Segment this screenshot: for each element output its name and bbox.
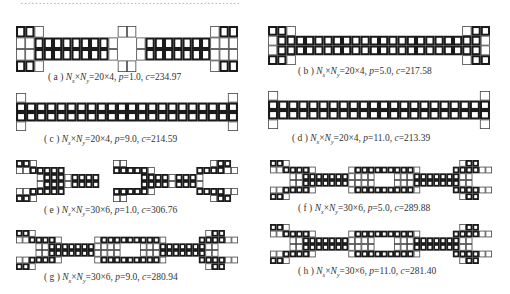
cropped-body-text: ……………………………………………………	[20, 0, 260, 6]
caption-g: ( g ) Nx×Ny=30×6, p=9.0, c=280.94	[44, 272, 178, 284]
structure-grid-c	[16, 93, 238, 131]
grid-size-value: =30×6,	[340, 266, 370, 276]
caption-label: ( b )	[298, 66, 316, 76]
structure-grid-e	[16, 160, 238, 202]
c-value: =217.58	[400, 66, 431, 76]
c-value: =213.39	[399, 133, 430, 143]
caption-c: ( c ) Nx×Ny=20×4, p=9.0, c=214.59	[44, 134, 177, 146]
grid-size-value: =30×6,	[86, 272, 116, 282]
p-value: =11.0,	[374, 266, 400, 276]
caption-label: ( d )	[292, 133, 310, 143]
panel-e	[16, 160, 238, 202]
caption-e: ( e ) Nx×Ny=30×6, p=1.0, c=306.76	[44, 205, 177, 217]
caption-b: ( b ) Nx×Ny=20×4, p=5.0, c=217.58	[298, 66, 432, 78]
caption-label: ( e )	[44, 205, 62, 215]
caption-label: ( a )	[48, 72, 66, 82]
structure-grid-g	[16, 230, 238, 270]
structure-grid-d	[268, 91, 490, 129]
panel-c	[16, 93, 238, 131]
p-value: =9.0,	[120, 272, 142, 282]
c-value: =289.88	[399, 203, 430, 213]
c-value: =234.97	[150, 72, 181, 82]
p-value: =5.0,	[374, 66, 396, 76]
p-value: =11.0,	[368, 133, 394, 143]
caption-f: ( f ) Nx×Ny=30×6, p=5.0, c=289.88	[298, 203, 430, 215]
panel-a	[16, 26, 238, 72]
grid-size-value: =30×6,	[85, 205, 115, 215]
panel-f	[270, 160, 492, 200]
p-value: =1.0,	[120, 205, 142, 215]
panel-h	[270, 224, 492, 264]
c-value: =280.94	[146, 272, 177, 282]
caption-label: ( c )	[44, 134, 62, 144]
caption-label: ( f )	[298, 203, 315, 213]
grid-size-value: =20×4,	[334, 133, 364, 143]
caption-label: ( g )	[44, 272, 62, 282]
grid-size-value: =20×4,	[340, 66, 370, 76]
p-value: =9.0,	[120, 134, 142, 144]
structure-grid-h	[270, 224, 492, 264]
c-value: =306.76	[146, 205, 177, 215]
panel-b	[268, 26, 490, 65]
structure-grid-a	[16, 26, 238, 72]
panel-g	[16, 230, 238, 270]
structure-grid-b	[268, 26, 490, 65]
grid-size-value: =20×4,	[85, 134, 115, 144]
caption-d: ( d ) Nx×Ny=20×4, p=11.0, c=213.39	[292, 133, 430, 145]
grid-size-value: =20×4,	[89, 72, 119, 82]
p-value: =5.0,	[372, 203, 394, 213]
structure-grid-f	[270, 160, 492, 200]
p-value: =1.0,	[124, 72, 146, 82]
grid-size-value: =30×6,	[338, 203, 368, 213]
c-value: =281.40	[405, 266, 436, 276]
caption-a: ( a ) Nx×Ny=20×4, p=1.0, c=234.97	[48, 72, 181, 84]
c-value: =214.59	[146, 134, 177, 144]
caption-h: ( h ) Nx×Ny=30×6, p=11.0, c=281.40	[298, 266, 436, 278]
caption-label: ( h )	[298, 266, 316, 276]
panel-d	[268, 91, 490, 129]
